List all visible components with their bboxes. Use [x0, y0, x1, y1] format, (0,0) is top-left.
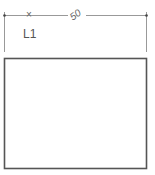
cad-drawing: × 50 L1	[0, 0, 155, 175]
left-endpoint-dot	[3, 14, 6, 17]
right-endpoint-dot	[145, 14, 148, 17]
rectangle-shape[interactable]	[5, 59, 147, 169]
dimension-label: L1	[23, 28, 36, 40]
midpoint-marker-icon: ×	[26, 10, 32, 20]
